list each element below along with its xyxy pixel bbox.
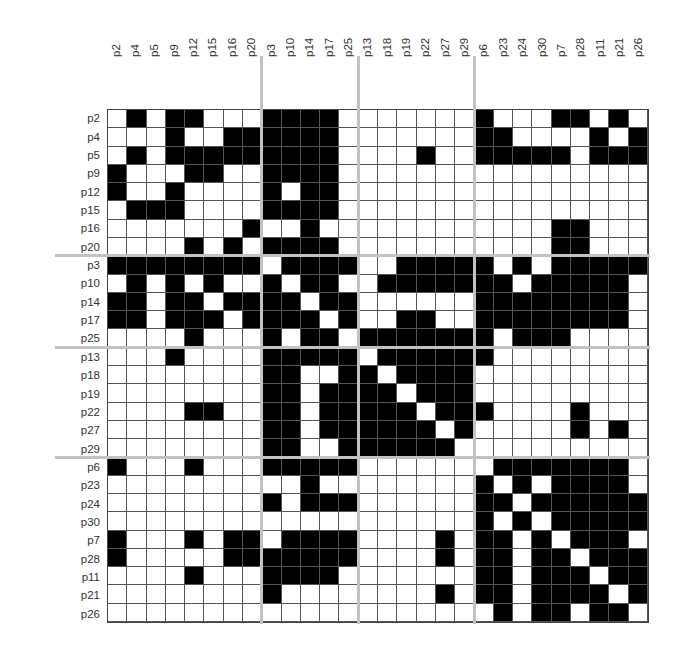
row-label: p5	[87, 146, 100, 164]
matrix-cell	[108, 220, 127, 238]
matrix-cell	[417, 293, 436, 311]
matrix-cell	[127, 183, 146, 201]
matrix-cell	[224, 165, 243, 183]
matrix-cell	[378, 348, 397, 366]
matrix-cell	[629, 604, 648, 622]
matrix-cell	[204, 128, 223, 146]
matrix-cell	[494, 147, 513, 165]
matrix-cell	[282, 348, 301, 366]
matrix-cell	[282, 585, 301, 603]
matrix-cell	[532, 604, 551, 622]
matrix-cell	[166, 457, 185, 475]
matrix-cell	[609, 403, 628, 421]
matrix-cell	[282, 476, 301, 494]
matrix-cell	[147, 384, 166, 402]
matrix-cell	[320, 293, 339, 311]
matrix-cell	[166, 183, 185, 201]
matrix-cell	[127, 457, 146, 475]
matrix-cell	[301, 567, 320, 585]
matrix-cell	[108, 128, 127, 146]
matrix-cell	[494, 403, 513, 421]
matrix-cell	[127, 110, 146, 128]
matrix-cell	[359, 128, 378, 146]
matrix-cell	[166, 421, 185, 439]
matrix-cell	[571, 439, 590, 457]
matrix-cell	[397, 567, 416, 585]
matrix-cell	[127, 567, 146, 585]
matrix-cell	[108, 494, 127, 512]
matrix-cell	[339, 329, 358, 347]
row-label: p10	[81, 274, 100, 292]
matrix-cell	[609, 366, 628, 384]
matrix-cell	[455, 329, 474, 347]
matrix-cell	[224, 421, 243, 439]
matrix-cell	[147, 110, 166, 128]
matrix-cell	[629, 512, 648, 530]
matrix-cell	[301, 220, 320, 238]
matrix-cell	[339, 531, 358, 549]
matrix-cell	[397, 549, 416, 567]
matrix-cell	[494, 293, 513, 311]
matrix-cell	[320, 476, 339, 494]
matrix-cell	[262, 439, 281, 457]
matrix-cell	[552, 147, 571, 165]
matrix-cell	[532, 183, 551, 201]
matrix-cell	[552, 329, 571, 347]
matrix-cell	[359, 549, 378, 567]
matrix-cell	[166, 275, 185, 293]
matrix-cell	[609, 220, 628, 238]
matrix-cell	[494, 384, 513, 402]
matrix-cell	[609, 147, 628, 165]
matrix-cell	[436, 549, 455, 567]
matrix-cell	[532, 585, 551, 603]
matrix-cell	[282, 421, 301, 439]
column-label: p23	[497, 38, 509, 57]
matrix-cell	[166, 384, 185, 402]
matrix-cell	[513, 403, 532, 421]
matrix-cell	[571, 421, 590, 439]
matrix-cell	[590, 293, 609, 311]
matrix-cell	[474, 439, 493, 457]
matrix-cell	[282, 165, 301, 183]
matrix-cell	[532, 366, 551, 384]
matrix-cell	[204, 585, 223, 603]
matrix-cell	[127, 348, 146, 366]
matrix-cell	[609, 457, 628, 475]
matrix-cell	[455, 549, 474, 567]
matrix-cell	[629, 275, 648, 293]
matrix-cell	[147, 275, 166, 293]
row-label: p11	[82, 568, 100, 586]
matrix-cell	[571, 403, 590, 421]
matrix-cell	[262, 220, 281, 238]
matrix-cell	[147, 128, 166, 146]
matrix-cell	[147, 567, 166, 585]
matrix-cell	[397, 329, 416, 347]
matrix-cell	[320, 275, 339, 293]
matrix-cell	[571, 585, 590, 603]
matrix-cell	[185, 183, 204, 201]
matrix-cell	[282, 604, 301, 622]
matrix-cell	[359, 421, 378, 439]
matrix-cell	[262, 457, 281, 475]
matrix-cell	[417, 329, 436, 347]
matrix-cell	[513, 348, 532, 366]
matrix-cell	[571, 256, 590, 274]
matrix-cell	[494, 585, 513, 603]
block-separator-vertical	[357, 56, 360, 624]
matrix-cell	[359, 384, 378, 402]
matrix-cell	[359, 348, 378, 366]
matrix-cell	[474, 220, 493, 238]
matrix-cell	[417, 147, 436, 165]
matrix-cell	[474, 604, 493, 622]
matrix-cell	[455, 439, 474, 457]
block-separator-horizontal	[55, 346, 650, 349]
matrix-cell	[474, 384, 493, 402]
matrix-cell	[417, 549, 436, 567]
matrix-cell	[147, 585, 166, 603]
matrix-cell	[204, 421, 223, 439]
matrix-cell	[609, 549, 628, 567]
matrix-cell	[127, 549, 146, 567]
matrix-cell	[185, 128, 204, 146]
matrix-cell	[571, 275, 590, 293]
matrix-cell	[436, 384, 455, 402]
